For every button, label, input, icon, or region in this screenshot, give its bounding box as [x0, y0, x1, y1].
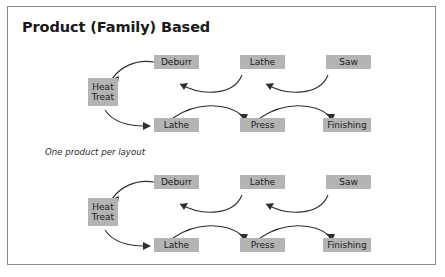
- flow-arrows-2: [8, 165, 437, 257]
- arrow-lathe-to-deburr: [180, 75, 242, 92]
- page-title: Product (Family) Based: [22, 19, 210, 35]
- node-saw-top[interactable]: Saw: [326, 175, 371, 189]
- arrow-press-to-finishing: [260, 106, 330, 118]
- node-lathe-top[interactable]: Lathe: [240, 175, 285, 189]
- node-finishing[interactable]: Finishing: [323, 238, 371, 252]
- caption-one-product-per-layout: One product per layout: [45, 147, 145, 157]
- node-saw-top[interactable]: Saw: [326, 55, 371, 69]
- arrow-heat-treat-to-lathe: [105, 110, 145, 126]
- arrow-lathe-to-press: [173, 226, 243, 238]
- node-deburr-top[interactable]: Deburr: [154, 175, 199, 189]
- arrow-lathe-to-press: [173, 106, 243, 118]
- node-press[interactable]: Press: [240, 118, 285, 132]
- node-heat-treat[interactable]: Heat Treat: [88, 78, 118, 106]
- arrow-saw-to-lathe: [266, 195, 328, 212]
- figure-frame: Product (Family) Based Heat Treat: [7, 6, 436, 265]
- node-press[interactable]: Press: [240, 238, 285, 252]
- node-lathe-bottom[interactable]: Lathe: [154, 118, 199, 132]
- node-label-line-1: Heat: [92, 82, 113, 93]
- node-label-line-2: Treat: [92, 212, 114, 223]
- arrow-heat-treat-to-lathe: [105, 230, 145, 246]
- arrow-lathe-to-deburr: [180, 195, 242, 212]
- node-lathe-bottom[interactable]: Lathe: [154, 238, 199, 252]
- node-label-line-1: Heat: [92, 202, 113, 213]
- node-deburr-top[interactable]: Deburr: [154, 55, 199, 69]
- arrow-saw-to-lathe: [266, 75, 328, 92]
- process-flow-diagram-1: Heat Treat Deburr Lathe Saw Lathe Press …: [8, 45, 437, 137]
- arrow-press-to-finishing: [260, 226, 330, 238]
- node-lathe-top[interactable]: Lathe: [240, 55, 285, 69]
- node-finishing[interactable]: Finishing: [323, 118, 371, 132]
- node-heat-treat[interactable]: Heat Treat: [88, 198, 118, 226]
- process-flow-diagram-2: Heat Treat Deburr Lathe Saw Lathe Press …: [8, 165, 437, 257]
- flow-arrows-1: [8, 45, 437, 137]
- node-label-line-2: Treat: [92, 92, 114, 103]
